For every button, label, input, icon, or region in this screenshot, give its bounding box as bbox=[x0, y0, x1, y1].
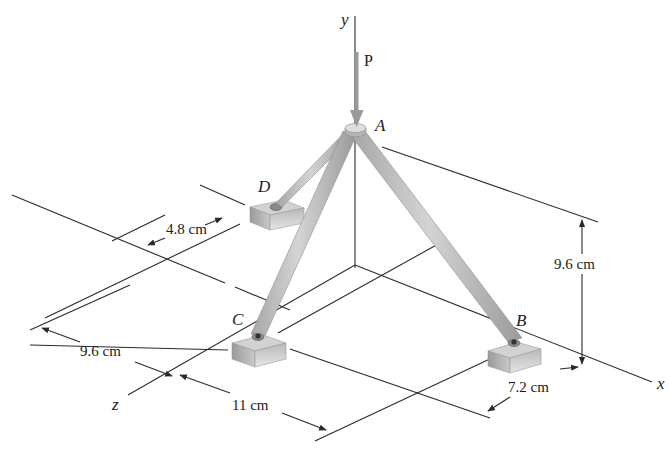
b-offset-arrow-2 bbox=[488, 397, 510, 411]
support-block-d bbox=[250, 200, 304, 230]
d-extension-line-x bbox=[12, 195, 225, 283]
z-offset-arrow-1 bbox=[42, 328, 80, 342]
apex-joint-a bbox=[345, 124, 366, 138]
support-block-c bbox=[232, 333, 286, 367]
d-offset-label: 4.8 cm bbox=[166, 221, 207, 237]
d-dim-extension bbox=[112, 215, 165, 241]
d-dim-ext-upper bbox=[200, 185, 245, 205]
z-offset-label: 9.6 cm bbox=[80, 343, 121, 359]
member-ab bbox=[352, 131, 522, 342]
left-extension-line bbox=[30, 285, 130, 330]
x-span-arrow-2 bbox=[282, 413, 326, 430]
d-offset-arrow-2 bbox=[148, 238, 165, 245]
cb-grid-line bbox=[278, 243, 440, 333]
point-b-label: B bbox=[516, 311, 527, 330]
b-offset-arrow-1 bbox=[560, 367, 578, 369]
member-ac bbox=[251, 131, 356, 338]
d-offset-arrow-1 bbox=[205, 218, 222, 225]
z-offset-arrow-2 bbox=[135, 362, 172, 376]
load-label: P bbox=[364, 52, 373, 69]
c-extension-line bbox=[290, 349, 490, 418]
c-extension-line-z bbox=[30, 345, 228, 350]
support-block-b bbox=[488, 339, 541, 373]
point-d-label: D bbox=[257, 177, 271, 196]
z-axis bbox=[128, 265, 355, 395]
point-a-label: A bbox=[374, 116, 386, 135]
tripod-diagram: y x z 9.6 cm 7.2 cm 11 cm 9.6 cm 4.8 cm bbox=[0, 0, 669, 458]
x-axis-label: x bbox=[656, 374, 665, 393]
load-arrow-p bbox=[350, 52, 364, 127]
y-axis-label: y bbox=[339, 10, 349, 29]
z-axis-label: z bbox=[111, 395, 119, 414]
b-extension-line-z bbox=[315, 358, 492, 441]
height-dimension-label: 9.6 cm bbox=[554, 256, 595, 272]
x-span-label: 11 cm bbox=[232, 397, 269, 413]
x-span-arrow-1 bbox=[180, 375, 230, 393]
point-c-label: C bbox=[232, 310, 244, 329]
b-offset-label: 7.2 cm bbox=[508, 379, 549, 395]
d-extension-line-z bbox=[45, 224, 240, 318]
